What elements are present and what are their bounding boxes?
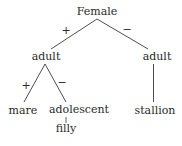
node-adult-right: adult — [143, 51, 172, 63]
node-stallion: stallion — [135, 105, 176, 117]
node-adult-left: adult — [32, 51, 61, 63]
edge-label-minus-bottom: − — [57, 77, 66, 89]
node-mare: mare — [9, 105, 38, 117]
edge-label-minus-top: − — [122, 24, 131, 36]
node-adolescent: adolescent — [49, 104, 109, 116]
feature-tree-diagram: Female + − adult adult + − mare adolesce… — [0, 0, 182, 146]
node-female: Female — [77, 6, 118, 18]
node-filly: filly — [56, 123, 77, 135]
edge-label-plus-top: + — [61, 25, 70, 37]
edge-label-plus-bottom: + — [21, 80, 30, 92]
tree-edges — [0, 0, 182, 146]
edge-female-adult-left — [51, 19, 97, 49]
